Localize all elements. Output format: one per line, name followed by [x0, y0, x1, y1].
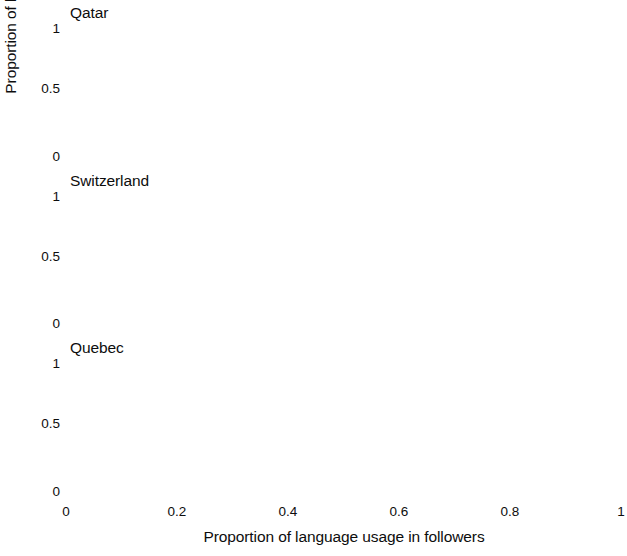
figure-root: Proportion of language usage in a user P… — [0, 0, 627, 556]
plot-canvas — [0, 0, 627, 556]
